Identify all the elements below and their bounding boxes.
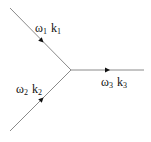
wave3-omega-sub: 3 <box>109 81 113 90</box>
wave3-label: ω3k3 <box>101 76 127 90</box>
wave3-arrow-icon <box>105 68 110 73</box>
wave3-k-sub: 3 <box>123 81 127 90</box>
wave3-omega: ω <box>101 75 109 89</box>
wave2-omega-sub: 2 <box>24 88 28 97</box>
wave2-label: ω2k2 <box>16 83 42 97</box>
wave1-omega-sub: 1 <box>43 27 47 36</box>
wave2-k-sub: 2 <box>38 88 42 97</box>
wave1-k-sub: 1 <box>57 27 61 36</box>
wave2-omega: ω <box>16 82 24 96</box>
wave1-omega: ω <box>35 21 43 35</box>
wave1-label: ω1k1 <box>35 22 61 36</box>
wave-vertex-diagram <box>0 0 151 142</box>
